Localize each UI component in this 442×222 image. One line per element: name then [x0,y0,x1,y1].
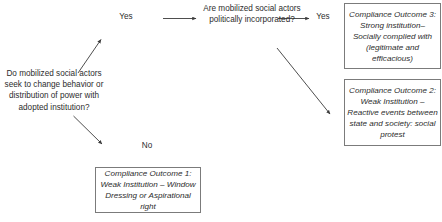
start-question-text: Do mobilized social actors seek to chang… [2,68,106,113]
incorporation-question-text: Are mobilized social actors politically … [200,3,304,25]
edge-label-start-yes: Yes [112,12,140,22]
outcome-3-text: Compliance Outcome 3: Strong institution… [345,9,440,64]
outcome-1-text: Compliance Outcome 1: Weak Institution –… [96,168,200,212]
outcome-box-3: Compliance Outcome 3: Strong institution… [344,3,441,69]
outcome-box-2: Compliance Outcome 2: Weak Institution –… [344,79,441,146]
edge-incorporation-no-to-outcome2 [277,48,330,114]
outcome-box-1: Compliance Outcome 1: Weak Institution –… [95,167,201,213]
edge-label-incorporation-yes: Yes [310,12,336,22]
edge-label-start-no: No [134,141,160,151]
edge-start-to-outcome1 [74,116,103,144]
flowchart-canvas: Do mobilized social actors seek to chang… [0,0,442,222]
outcome-2-text: Compliance Outcome 2: Weak Institution –… [345,85,440,140]
